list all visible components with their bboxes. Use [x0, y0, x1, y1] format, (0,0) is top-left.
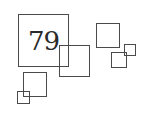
- tiny-square-outline: [17, 91, 30, 104]
- top-right-square-outline: [96, 23, 120, 48]
- small-square-outline: [124, 44, 136, 56]
- overlap-square-outline: [59, 45, 90, 77]
